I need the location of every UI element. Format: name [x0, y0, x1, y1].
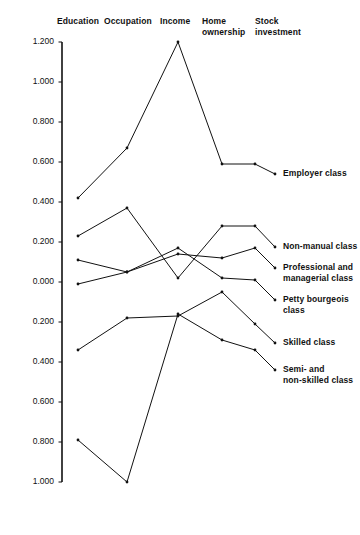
data-point — [221, 339, 224, 342]
series-leader-line — [255, 324, 275, 343]
series-leader-endpoint — [274, 267, 277, 270]
series-label-employer-class: Employer class — [283, 168, 347, 179]
axis-title-education: Education — [57, 16, 99, 27]
y-tick-label: 0.600 — [8, 157, 54, 166]
y-tick-label: 1.000 — [8, 77, 54, 86]
data-point — [221, 257, 224, 260]
series-leader-endpoint — [274, 246, 277, 249]
data-point — [126, 207, 129, 210]
y-tick-label: 0.600 — [8, 397, 54, 406]
series-line — [78, 314, 255, 482]
data-point — [221, 225, 224, 228]
y-tick-label: 0.800 — [8, 117, 54, 126]
series-line — [78, 248, 255, 272]
data-point — [126, 147, 129, 150]
data-point — [177, 313, 180, 316]
y-tick-label: 1.200 — [8, 37, 54, 46]
series-leader-endpoint — [274, 342, 277, 345]
series-label-petty-bourgeois-class: Petty bourgeois class — [283, 294, 349, 316]
axis-title-income: Income — [160, 16, 190, 27]
series-leader-endpoint — [274, 299, 277, 302]
data-point — [221, 277, 224, 280]
data-point — [221, 291, 224, 294]
data-point — [77, 349, 80, 352]
data-point — [126, 271, 129, 274]
y-tick-label: 0.800 — [8, 437, 54, 446]
data-point — [77, 259, 80, 262]
series-line — [78, 292, 255, 350]
series-line — [78, 208, 255, 278]
data-point — [77, 439, 80, 442]
y-tick-label: 0.200 — [8, 237, 54, 246]
data-point — [126, 481, 129, 484]
series-leader-line — [255, 248, 275, 268]
data-point — [77, 235, 80, 238]
series-leader-line — [255, 350, 275, 370]
y-tick-label: 1.000 — [8, 477, 54, 486]
series-leader-line — [255, 280, 275, 300]
series-label-professional-and-managerial-class: Professional and managerial class — [283, 262, 353, 284]
series-label-skilled-class: Skilled class — [283, 337, 335, 348]
axis-title-home-ownership: Home ownership — [202, 16, 245, 37]
y-tick-label: 0.000 — [8, 277, 54, 286]
data-point — [126, 317, 129, 320]
data-point — [221, 163, 224, 166]
axis-title-occupation: Occupation — [104, 16, 152, 27]
data-point — [177, 247, 180, 250]
series-leader-endpoint — [274, 369, 277, 372]
series-leader-line — [255, 226, 275, 247]
y-tick-label: 0.400 — [8, 357, 54, 366]
data-point — [177, 41, 180, 44]
y-tick-label: 0.200 — [8, 317, 54, 326]
series-label-semi-and-non-skilled-class: Semi- and non-skilled class — [283, 364, 353, 386]
data-point — [177, 253, 180, 256]
series-line — [78, 42, 255, 198]
parallel-coordinates-chart: EducationOccupationIncomeHome ownershipS… — [0, 0, 360, 535]
data-point — [177, 277, 180, 280]
series-label-non-manual-class: Non-manual class — [283, 241, 357, 252]
data-point — [77, 197, 80, 200]
series-leader-endpoint — [274, 173, 277, 176]
y-tick-label: 0.400 — [8, 197, 54, 206]
axis-title-stock-investment: Stock investment — [255, 16, 301, 37]
series-leader-line — [255, 164, 275, 174]
data-point — [77, 283, 80, 286]
